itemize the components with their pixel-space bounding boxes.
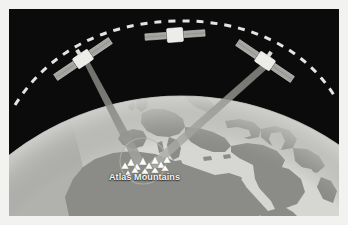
satellite-top-body [167,27,184,42]
illustration-figure: Atlas Mountains [0,0,348,225]
space-scene: Atlas Mountains [9,9,339,216]
scene-graphic [9,9,339,216]
